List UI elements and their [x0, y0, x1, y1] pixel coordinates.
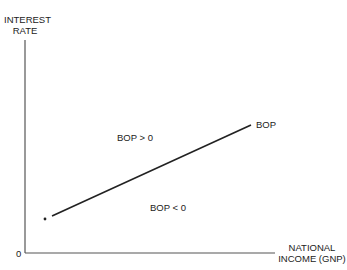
start-point-dot: [44, 218, 47, 221]
y-axis-label: INTEREST RATE: [4, 14, 46, 36]
bop-curve-label: BOP: [256, 119, 276, 130]
diagram-canvas: [0, 0, 347, 270]
region-label-above: BOP > 0: [117, 132, 153, 143]
x-axis-label: NATIONAL INCOME (GNP): [278, 242, 346, 264]
origin-label: 0: [16, 248, 21, 259]
x-axis-label-line1: NATIONAL: [278, 242, 346, 253]
y-axis-label-line1: INTEREST: [4, 14, 46, 25]
x-axis-label-line2: INCOME (GNP): [278, 253, 346, 264]
y-axis-label-line2: RATE: [4, 25, 46, 36]
region-label-below: BOP < 0: [150, 202, 186, 213]
